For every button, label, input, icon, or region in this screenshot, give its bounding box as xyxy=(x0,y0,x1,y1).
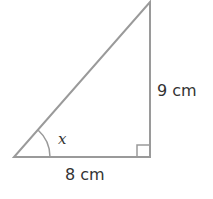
height-label: 9 cm xyxy=(157,81,197,100)
base-label: 8 cm xyxy=(65,165,105,184)
triangle-diagram: x 9 cm 8 cm xyxy=(0,0,213,199)
right-angle-marker xyxy=(137,145,150,157)
right-triangle xyxy=(14,2,150,157)
angle-label: x xyxy=(58,130,67,148)
angle-arc xyxy=(38,130,50,157)
